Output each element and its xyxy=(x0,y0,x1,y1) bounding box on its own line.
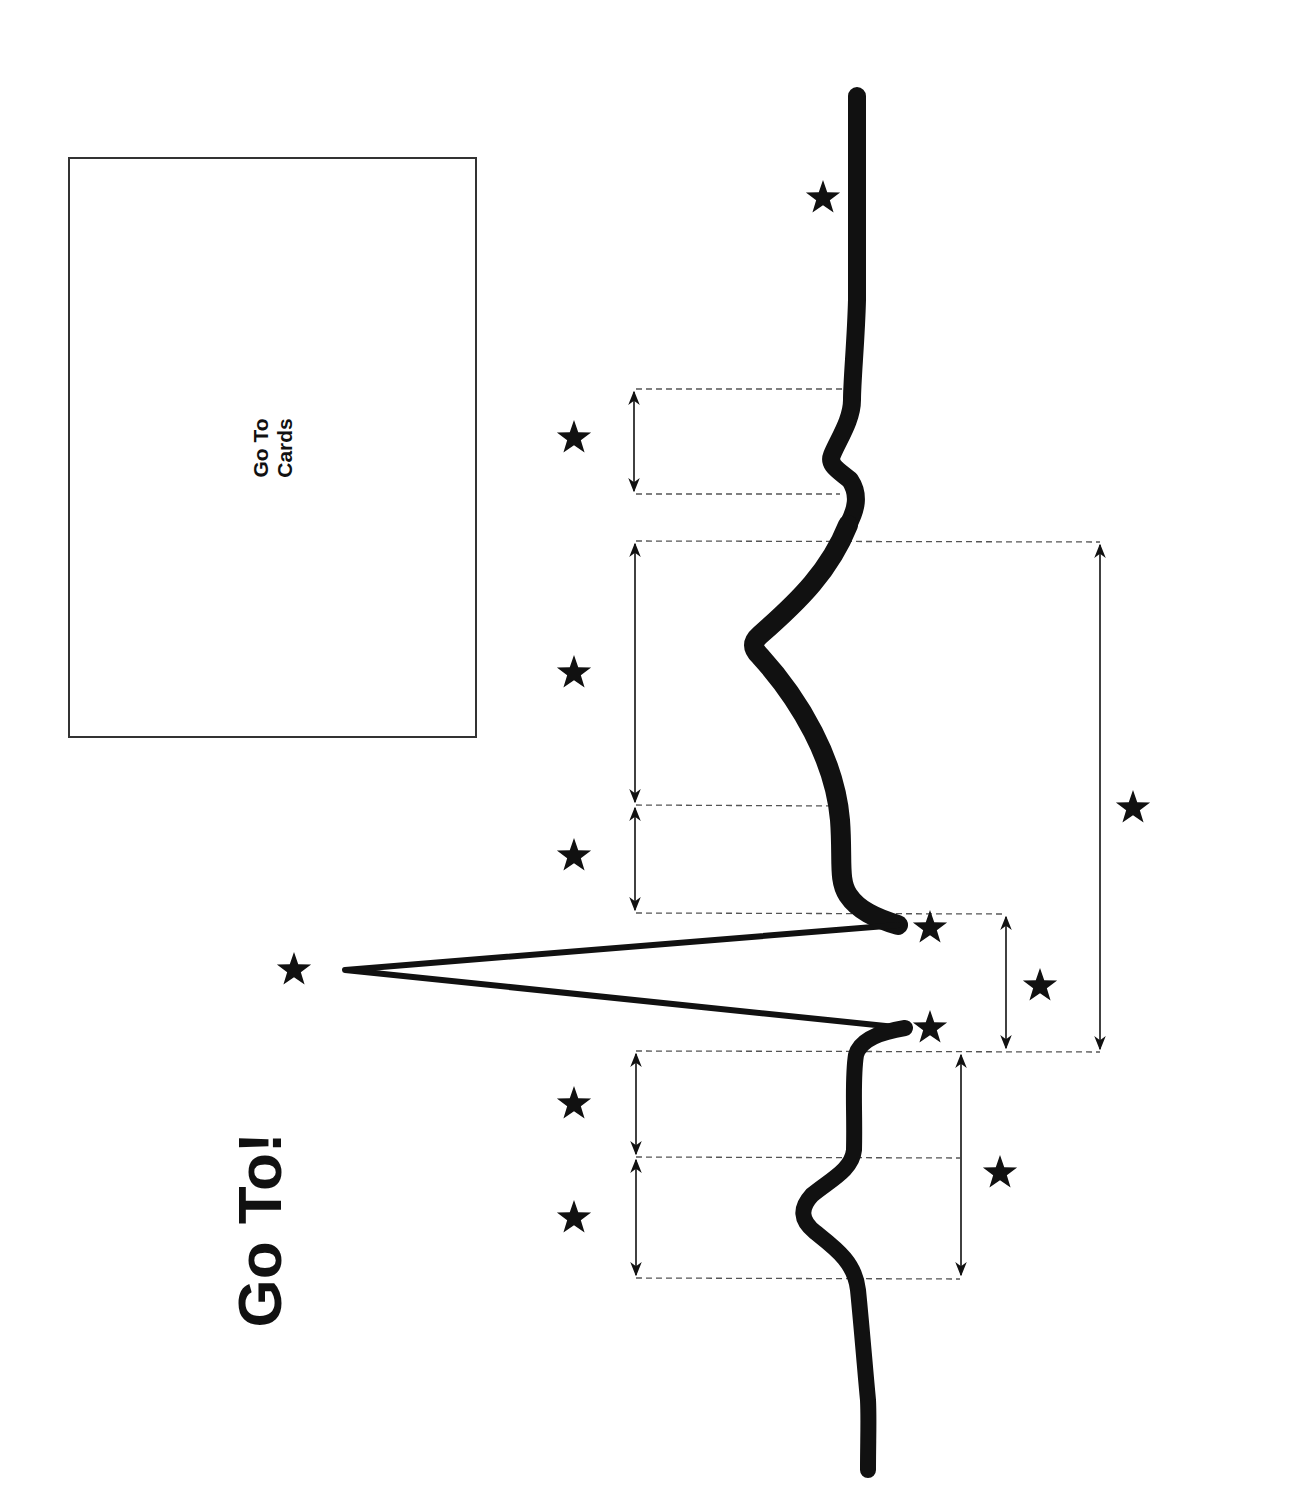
star-icon-qrs-duration xyxy=(1023,968,1057,1001)
star-icon-baseline-end xyxy=(806,180,840,213)
star-icon-st-segment xyxy=(557,838,591,871)
star-icon-r-peak xyxy=(277,952,311,985)
star-icon-pr-segment xyxy=(557,1086,591,1119)
star-markers xyxy=(277,180,1150,1233)
star-icon-q-point xyxy=(913,1010,947,1043)
star-icon-u-wave xyxy=(557,420,591,453)
star-icon-pr-interval xyxy=(983,1155,1017,1188)
baseline-end-trace xyxy=(831,96,857,525)
star-icon-t-wave xyxy=(557,655,591,688)
star-icon-s-point xyxy=(913,910,947,943)
qrs-trace xyxy=(345,925,905,1028)
star-icon-qt-interval xyxy=(1116,790,1150,823)
t-wave-trace xyxy=(754,525,898,925)
interval-arrows xyxy=(634,392,1100,1275)
ecg-trace xyxy=(345,96,905,1470)
ecg-diagram xyxy=(0,0,1293,1492)
star-icon-p-wave xyxy=(557,1200,591,1233)
pr-p-wave-trace xyxy=(803,1028,905,1470)
dashed-guides xyxy=(636,389,1100,1279)
